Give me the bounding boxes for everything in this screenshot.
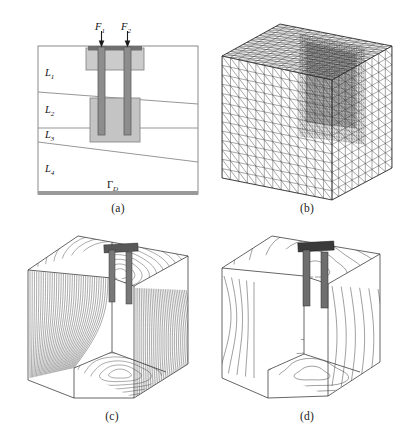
pile-2 [124,47,131,135]
force-label-2: F2 [120,21,131,35]
caption-c: (c) [16,410,208,422]
cap-beam [88,46,142,51]
panel-d-contours-sparse [212,222,402,408]
figure-container: F1 F2 L1 L2 L3 L4 ΓD (a) [0,0,408,447]
mesh-left-face [222,56,332,200]
upper-cap-block [86,48,144,70]
pile-1 [98,47,105,135]
panel-c-contours-dense [16,222,208,408]
panel-b-svg [214,18,400,204]
force-label-1: F1 [94,21,105,35]
caption-a: (a) [28,202,208,214]
caption-b: (b) [214,202,400,214]
panel-b-mesh [214,18,400,204]
panel-a-svg: F1 F2 L1 L2 L3 L4 ΓD [28,20,208,202]
caption-d: (d) [212,410,402,422]
lower-soil-block [90,98,140,142]
panel-c-svg [16,222,208,408]
pile-structure-c [104,243,138,304]
panel-a-schematic: F1 F2 L1 L2 L3 L4 ΓD [28,20,208,202]
mesh-wireframe [222,24,392,200]
panel-d-svg [212,222,402,408]
